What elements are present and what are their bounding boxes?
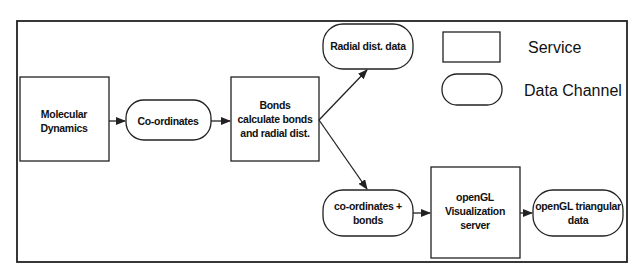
node-label: Radial dist. data: [330, 40, 406, 52]
node-label: Molecular: [41, 108, 88, 120]
node-opengl-server: openGL Visualization server: [431, 167, 520, 258]
legend-data-channel-label: Data Channel: [524, 82, 622, 99]
node-label: data: [568, 214, 589, 226]
node-label: Bonds: [259, 99, 291, 111]
node-bonds: Bonds calculate bonds and radial dist.: [231, 77, 319, 161]
edge-bonds-to-coords-bonds: [319, 120, 367, 189]
node-coordinates: Co-ordinates: [126, 100, 211, 140]
node-opengl-triangular-data: openGL triangular data: [533, 190, 623, 236]
node-coordinates-bonds: co-ordinates + bonds: [323, 190, 413, 236]
legend-data-channel-swatch: [442, 74, 502, 105]
legend-service-label: Service: [528, 39, 581, 56]
legend-service-swatch: [443, 32, 500, 62]
node-label: openGL triangular: [535, 200, 621, 212]
node-label: co-ordinates +: [334, 200, 402, 212]
node-label: bonds: [353, 214, 383, 226]
diagram-canvas: Molecular Dynamics Co-ordinates Bonds ca…: [0, 0, 643, 277]
node-label: openGL: [456, 191, 495, 203]
node-label: Co-ordinates: [137, 115, 199, 127]
node-label: Visualization: [445, 205, 505, 217]
node-radial-dist-data: Radial dist. data: [323, 24, 413, 69]
node-label: and radial dist.: [240, 127, 310, 139]
node-label: server: [460, 219, 490, 231]
node-label: calculate bonds: [238, 113, 313, 125]
node-label: Dynamics: [40, 122, 88, 134]
node-molecular-dynamics: Molecular Dynamics: [20, 77, 109, 161]
legend: Service Data Channel: [442, 32, 622, 105]
edge-bonds-to-radial: [319, 70, 367, 120]
